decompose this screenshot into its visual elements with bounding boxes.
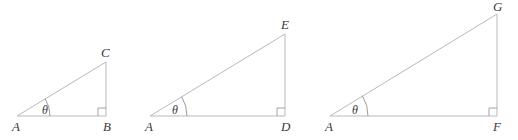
vertex-label-f-triangle3: F (493, 120, 501, 133)
vertex-label-d-triangle2: D (281, 120, 290, 133)
vertex-label-a-triangle3: A (325, 120, 333, 133)
triangles-svg (0, 0, 518, 140)
geometry-figure-canvas: A B C θ A D E θ A F G θ (0, 0, 518, 140)
vertex-label-g-triangle3: G (493, 0, 502, 13)
angle-label-theta-triangle1: θ (42, 104, 48, 116)
vertex-label-e-triangle2: E (281, 18, 289, 31)
vertex-label-b-triangle1: B (103, 120, 111, 133)
segment-ac-hypotenuse (17, 62, 106, 116)
vertex-label-a-triangle2: A (145, 120, 153, 133)
triangle-abc-group (17, 62, 106, 116)
angle-arc-a-triangle3 (362, 96, 368, 116)
segment-ae-hypotenuse (150, 34, 285, 116)
segment-ag-hypotenuse (330, 14, 497, 116)
vertex-label-a-triangle1: A (12, 120, 20, 133)
angle-label-theta-triangle2: θ (172, 104, 178, 116)
triangle-ade-group (150, 34, 285, 116)
right-angle-marker-b (98, 108, 106, 116)
vertex-label-c-triangle1: C (101, 46, 110, 59)
right-angle-marker-d (277, 108, 285, 116)
triangle-afg-group (330, 14, 497, 116)
angle-arc-a-triangle2 (182, 97, 187, 116)
angle-label-theta-triangle3: θ (352, 104, 358, 116)
right-angle-marker-f (489, 108, 497, 116)
